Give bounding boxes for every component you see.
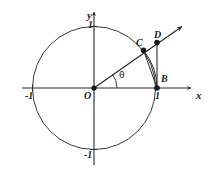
unit-circle-diagram [0,0,208,175]
y-tick-neg-one-label: -1 [84,150,92,160]
unit-circle-figure: x y 1 -1 -1 1 O θ B C D [0,0,208,175]
origin-label: O [84,91,91,101]
segment-b-to-c [144,50,158,88]
point-d-dot [154,40,160,46]
ray-o-to-arrow [94,27,182,89]
point-o-dot [91,85,96,90]
angle-arc-theta [112,74,117,88]
x-axis-label: x [196,90,202,101]
x-tick-neg-one-label: -1 [25,91,33,101]
point-b-label: B [161,74,168,84]
y-tick-one-label: 1 [88,20,93,30]
point-c-label: C [136,38,143,48]
angle-theta-label: θ [119,71,125,80]
point-d-label: D [154,30,161,40]
x-tick-one-label: 1 [155,91,160,101]
point-c-dot [141,48,147,54]
